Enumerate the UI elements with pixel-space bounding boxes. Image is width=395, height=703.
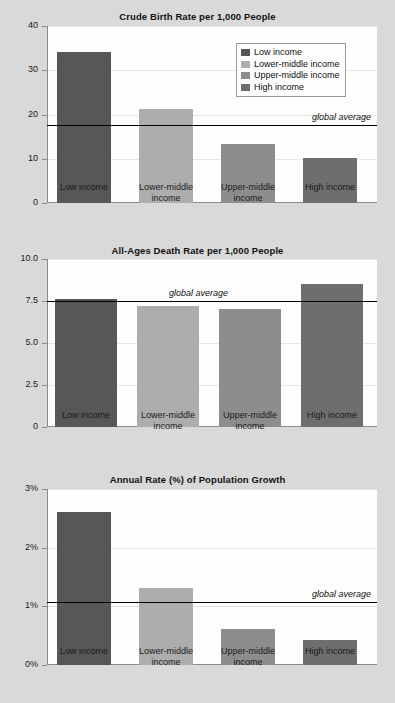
chart-title-1: Crude Birth Rate per 1,000 People — [0, 11, 395, 22]
gridline — [47, 26, 377, 27]
chart-title-2: All-Ages Death Rate per 1,000 People — [0, 245, 395, 256]
x-axis-category-label: Lower-middle income — [123, 410, 213, 431]
bar — [57, 512, 111, 665]
x-axis-category-label: High income — [285, 182, 375, 193]
x-axis-category-label: Low income — [39, 182, 129, 193]
y-axis-tick-label: 0% — [0, 659, 38, 669]
legend-swatch-icon — [241, 49, 250, 56]
legend-item-label: Low income — [254, 47, 302, 59]
legend-item-label: High income — [254, 82, 304, 94]
y-axis-tick-label: 7.5 — [0, 295, 38, 305]
y-axis-tick-label: 2.5 — [0, 379, 38, 389]
legend-swatch-icon — [241, 61, 250, 68]
y-axis-tick-label: 3% — [0, 483, 38, 493]
bar — [57, 52, 111, 203]
legend-item[interactable]: Low income — [241, 47, 340, 59]
y-axis-tick-label: 1% — [0, 600, 38, 610]
y-axis-tick-label: 2% — [0, 542, 38, 552]
global-average-label: global average — [169, 288, 228, 298]
bar — [301, 284, 363, 427]
x-axis-category-label: Low income — [41, 410, 131, 421]
x-axis-category-label: Upper-middle income — [205, 410, 295, 431]
global-average-line — [47, 602, 377, 603]
x-axis-category-label: Low income — [39, 646, 129, 657]
y-axis — [47, 489, 48, 665]
y-axis-tick-label: 30 — [0, 64, 38, 74]
y-axis — [47, 26, 48, 203]
legend-item[interactable]: Upper-middle income — [241, 70, 340, 82]
legend-item[interactable]: High income — [241, 82, 340, 94]
y-tick-mark — [42, 665, 47, 666]
global-average-label: global average — [312, 112, 371, 122]
chart-legend: Low incomeLower-middle incomeUpper-middl… — [236, 43, 346, 97]
chart-panel-birth-rate: Crude Birth Rate per 1,000 People global… — [0, 0, 395, 237]
y-axis-tick-label: 0 — [0, 197, 38, 207]
y-axis-tick-label: 0 — [0, 421, 38, 431]
plot-area-3: global average — [47, 489, 377, 665]
x-axis-category-label: Upper-middle income — [203, 646, 293, 667]
bar — [55, 299, 117, 427]
chart-title-3: Annual Rate (%) of Population Growth — [0, 474, 395, 485]
y-axis-tick-label: 10 — [0, 153, 38, 163]
y-tick-mark — [42, 427, 47, 428]
x-axis-category-label: High income — [287, 410, 377, 421]
legend-item[interactable]: Lower-middle income — [241, 59, 340, 71]
y-axis-tick-label: 40 — [0, 20, 38, 30]
legend-swatch-icon — [241, 84, 250, 91]
y-axis — [47, 259, 48, 427]
y-axis-tick-label: 10.0 — [0, 253, 38, 263]
plot-area-2: global average — [47, 259, 377, 427]
bar — [303, 158, 357, 203]
chart-panel-population-growth: Annual Rate (%) of Population Growth glo… — [0, 465, 395, 703]
x-axis-category-label: Lower-middle income — [121, 646, 211, 667]
gridline — [47, 259, 377, 260]
x-axis-category-label: Lower-middle income — [121, 182, 211, 203]
x-axis-category-label: High income — [285, 646, 375, 657]
y-axis-tick-label: 20 — [0, 109, 38, 119]
chart-page: Crude Birth Rate per 1,000 People global… — [0, 0, 395, 703]
legend-item-label: Upper-middle income — [254, 70, 340, 82]
chart-panel-death-rate: All-Ages Death Rate per 1,000 People glo… — [0, 237, 395, 465]
global-average-line — [47, 301, 377, 302]
global-average-label: global average — [312, 589, 371, 599]
legend-swatch-icon — [241, 72, 250, 79]
y-tick-mark — [42, 203, 47, 204]
gridline — [47, 489, 377, 490]
legend-item-label: Lower-middle income — [254, 59, 340, 71]
bar — [137, 306, 199, 427]
y-axis-tick-label: 5.0 — [0, 337, 38, 347]
x-axis-category-label: Upper-middle income — [203, 182, 293, 203]
global-average-line — [47, 125, 377, 126]
